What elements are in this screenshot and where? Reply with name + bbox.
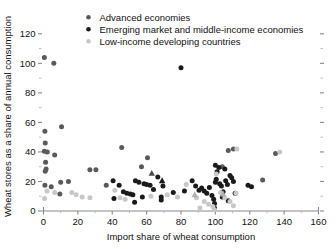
data-point [155,175,160,180]
data-point [190,178,195,183]
x-tick-label: 0 [41,216,46,227]
data-point [179,65,184,70]
data-point [42,196,47,201]
y-tick-label: 80 [25,87,36,98]
x-tick-label: 100 [207,216,223,227]
y-tick-label: 100 [20,58,36,69]
data-point [123,197,128,202]
series-1 [111,65,254,210]
data-point [184,182,189,187]
data-point [226,148,231,153]
x-tick-label: 120 [242,216,258,227]
scatter-chart: 020406080100120140160020406080100120Impo… [0,0,336,249]
data-point [58,180,63,185]
y-tick-label: 60 [25,117,36,128]
data-point [130,192,135,197]
data-point [42,183,47,188]
data-point [277,149,282,154]
data-point [80,194,85,199]
data-point [43,160,48,165]
data-point-triangle [192,191,198,197]
data-point [260,177,265,182]
data-point [216,165,221,170]
y-axis-label: Wheat stores as a share of annual consum… [2,16,13,217]
legend-marker-1 [86,27,91,32]
data-point [43,141,48,146]
data-point [273,151,278,156]
legend-marker-0 [86,15,91,20]
data-point [211,197,216,202]
data-point [66,179,71,184]
x-tick-label: 40 [107,216,118,227]
data-point [197,206,202,211]
data-point [57,192,62,197]
data-point [234,146,239,151]
series-0 [42,55,278,197]
data-point [74,192,79,197]
data-point [160,183,165,188]
x-axis-label: Import share of wheat consumption [107,231,255,242]
x-tick-label: 80 [176,216,187,227]
chart-canvas: 020406080100120140160020406080100120Impo… [0,0,336,249]
data-point [207,185,212,190]
data-point [214,177,219,182]
data-point [204,191,209,196]
data-point [249,184,254,189]
data-point [231,179,236,184]
y-tick-label: 20 [25,176,36,187]
data-point-triangle [149,170,155,176]
y-tick-label: 40 [25,146,36,157]
legend-label-0: Advanced economies [100,12,191,23]
data-point [87,195,92,200]
x-tick-label: 60 [141,216,152,227]
data-point [111,178,116,183]
legend-marker-2 [86,39,91,44]
data-point [69,190,74,195]
legend-label-1: Emerging market and middle-income econom… [100,24,304,35]
data-point [234,191,239,196]
data-point [140,194,145,199]
data-point [42,55,47,60]
y-tick-label: 0 [30,205,35,216]
data-point [225,182,230,187]
data-point [202,199,207,204]
x-tick-label: 160 [311,216,327,227]
data-point [227,199,232,204]
data-point [45,149,50,154]
data-point [175,194,180,199]
data-point [222,166,227,171]
legend-label-2: Low-income developing countries [100,36,241,47]
data-point [182,189,187,194]
data-point [52,152,57,157]
data-point [111,196,116,201]
data-point [193,183,198,188]
data-point [148,194,153,199]
data-point [52,190,57,195]
data-point [93,167,98,172]
data-point [42,129,47,134]
data-point [139,164,144,169]
data-point [117,183,122,188]
data-point [212,207,217,212]
data-point [206,202,211,207]
data-point [132,200,137,205]
data-point [231,203,236,208]
data-point [136,180,141,185]
data-point [43,169,48,174]
data-point [51,61,56,66]
data-point [165,192,170,197]
y-tick-label: 120 [20,28,36,39]
data-point [148,183,153,188]
data-point [171,190,176,195]
data-point [145,155,150,160]
data-point [59,124,64,129]
data-point [87,167,92,172]
data-point [49,184,54,189]
data-point [219,183,224,188]
data-point [214,172,219,177]
data-point [44,189,49,194]
data-point [117,195,122,200]
data-point [159,197,164,202]
x-tick-label: 140 [276,216,292,227]
data-point [151,187,156,192]
